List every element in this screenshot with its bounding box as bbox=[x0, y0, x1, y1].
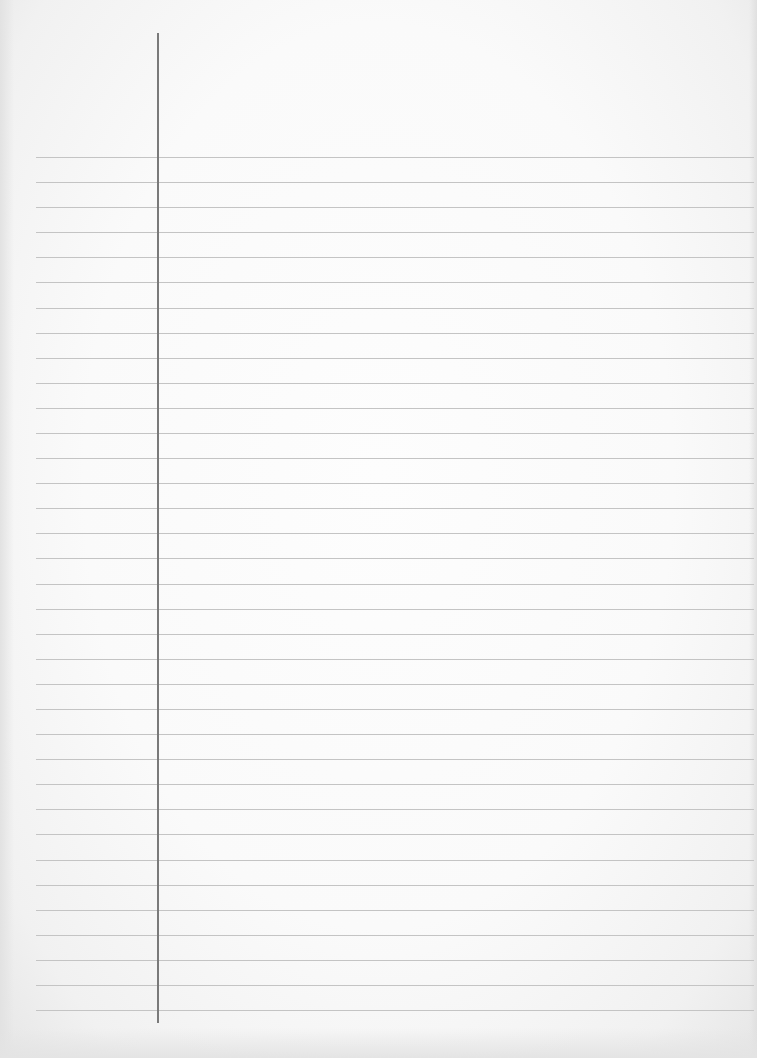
ruled-line bbox=[36, 935, 754, 936]
ruled-line bbox=[36, 408, 754, 409]
ruled-line bbox=[36, 157, 754, 158]
ruled-line bbox=[36, 308, 754, 309]
ruled-line bbox=[36, 885, 754, 886]
ruled-line bbox=[36, 985, 754, 986]
lined-paper-sheet bbox=[0, 0, 757, 1058]
ruled-lines bbox=[0, 0, 757, 1058]
ruled-line bbox=[36, 182, 754, 183]
ruled-line bbox=[36, 960, 754, 961]
ruled-line bbox=[36, 809, 754, 810]
ruled-line bbox=[36, 282, 754, 283]
ruled-line bbox=[36, 584, 754, 585]
ruled-line bbox=[36, 734, 754, 735]
ruled-line bbox=[36, 508, 754, 509]
ruled-line bbox=[36, 383, 754, 384]
margin-line bbox=[157, 33, 159, 1023]
ruled-line bbox=[36, 358, 754, 359]
ruled-line bbox=[36, 558, 754, 559]
ruled-line bbox=[36, 1010, 754, 1011]
ruled-line bbox=[36, 659, 754, 660]
ruled-line bbox=[36, 257, 754, 258]
ruled-line bbox=[36, 759, 754, 760]
ruled-line bbox=[36, 784, 754, 785]
ruled-line bbox=[36, 458, 754, 459]
ruled-line bbox=[36, 609, 754, 610]
ruled-line bbox=[36, 232, 754, 233]
ruled-line bbox=[36, 910, 754, 911]
ruled-line bbox=[36, 684, 754, 685]
ruled-line bbox=[36, 533, 754, 534]
ruled-line bbox=[36, 709, 754, 710]
ruled-line bbox=[36, 433, 754, 434]
ruled-line bbox=[36, 834, 754, 835]
ruled-line bbox=[36, 333, 754, 334]
ruled-line bbox=[36, 634, 754, 635]
ruled-line bbox=[36, 860, 754, 861]
ruled-line bbox=[36, 483, 754, 484]
ruled-line bbox=[36, 207, 754, 208]
